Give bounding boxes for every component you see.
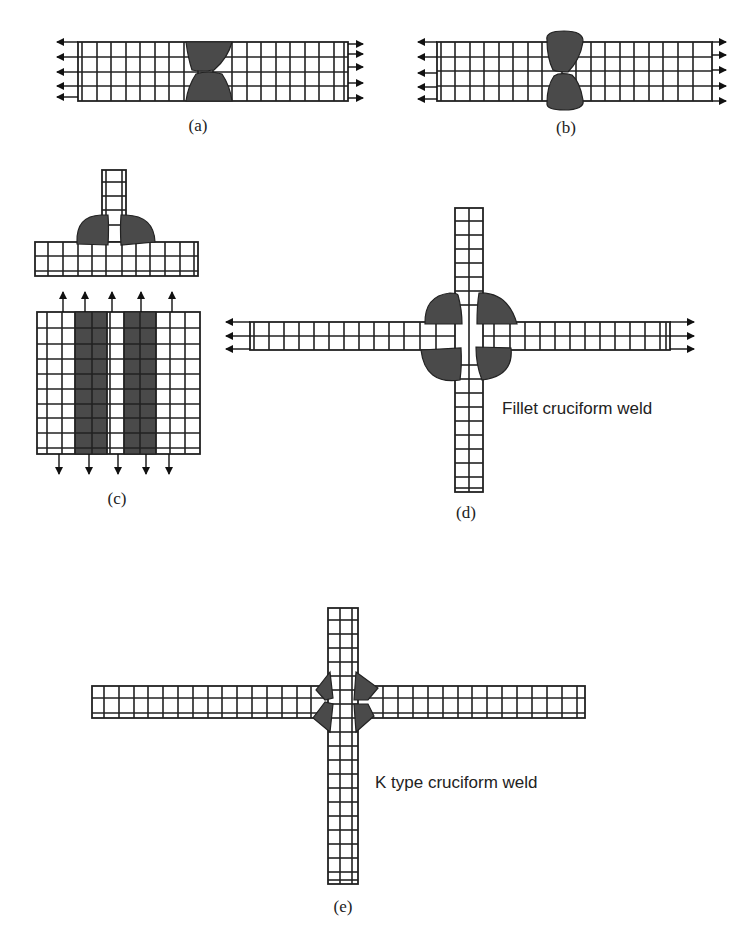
fillet-weld-bottom-left-d [421,348,461,381]
caption-a: (a) [189,116,208,135]
fillet-weld-top-right-d [477,293,517,324]
load-arrows-right-b [712,42,726,101]
load-arrows-down-c [59,454,169,474]
panel-d: Fillet cruciform weld (d) [226,208,694,522]
label-fillet-cruciform-weld: Fillet cruciform weld [502,399,652,418]
load-arrows-up-c [63,292,172,312]
load-arrows-left-b [418,42,437,99]
load-arrows-left-d [226,322,250,349]
label-k-type-cruciform-weld: K type cruciform weld [375,773,538,792]
panel-e: K type cruciform weld (e) [92,608,585,916]
fillet-weld-bottom-right-d [476,347,511,380]
weld-figure: (a) [0,0,736,946]
load-arrows-right-a [348,44,363,98]
fillet-weld-right-c [121,215,156,245]
panel-c: (c) [35,170,200,508]
panel-b: (b) [418,31,726,137]
fillet-weld-top-left-d [425,293,462,324]
fillet-weld-left-c [77,215,109,245]
load-arrows-right-d [670,322,694,349]
panel-a: (a) [57,42,363,135]
caption-b: (b) [556,118,576,137]
caption-e: (e) [334,897,353,916]
load-arrows-left-a [57,42,78,97]
caption-d: (d) [456,503,476,522]
caption-c: (c) [108,489,127,508]
